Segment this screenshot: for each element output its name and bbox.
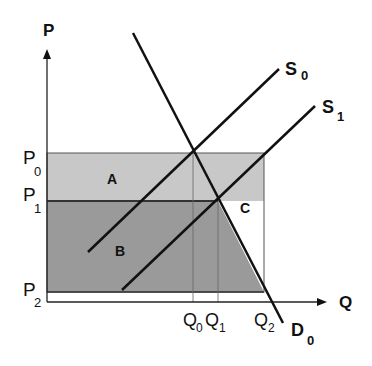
- price-label-p1: P 1: [23, 184, 41, 216]
- price-label-p0: P 0: [23, 147, 41, 179]
- svg-text:1: 1: [219, 321, 226, 335]
- quantity-label-q0: Q 0: [183, 310, 203, 335]
- svg-text:Q: Q: [254, 310, 268, 330]
- svg-text:2: 2: [34, 295, 41, 310]
- region-a: [47, 153, 264, 201]
- svg-text:0: 0: [196, 321, 203, 335]
- supply-demand-diagram: P Q P 0 P 1 P 2 Q 0 Q 1 Q 2 S 0 S 1 D 0 …: [0, 0, 372, 366]
- svg-text:2: 2: [268, 321, 275, 335]
- quantity-label-q2: Q 2: [254, 310, 275, 335]
- svg-text:0: 0: [301, 68, 308, 83]
- svg-text:0: 0: [307, 333, 314, 348]
- svg-text:1: 1: [337, 109, 344, 124]
- curve-label-d0: D 0: [291, 320, 314, 348]
- x-axis-arrow-icon: [317, 298, 327, 306]
- curve-label-s1: S 1: [322, 97, 344, 124]
- svg-text:Q: Q: [183, 310, 197, 330]
- y-axis-arrow-icon: [43, 49, 51, 59]
- y-axis-label: P: [43, 21, 54, 40]
- price-label-p2: P 2: [23, 279, 41, 310]
- svg-text:D: D: [291, 320, 304, 340]
- x-axis-label: Q: [339, 293, 352, 312]
- region-label-b: B: [115, 243, 125, 259]
- svg-text:1: 1: [34, 201, 41, 216]
- region-label-c: C: [240, 200, 250, 216]
- quantity-label-q1: Q 1: [205, 310, 226, 335]
- svg-text:0: 0: [34, 164, 41, 179]
- svg-text:S: S: [285, 59, 297, 79]
- region-label-a: A: [107, 171, 117, 187]
- curve-label-s0: S 0: [285, 59, 308, 83]
- svg-text:S: S: [322, 97, 334, 117]
- svg-text:Q: Q: [205, 310, 219, 330]
- region-b: [47, 201, 264, 292]
